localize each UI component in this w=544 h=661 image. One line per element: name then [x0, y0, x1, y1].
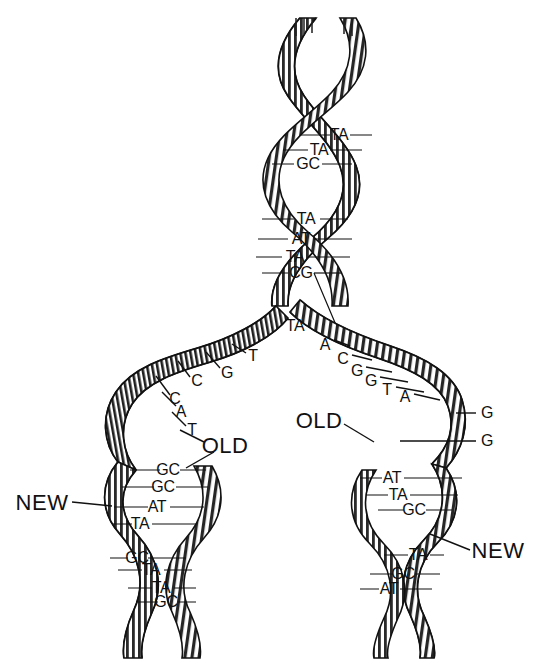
right-template-base: A	[400, 389, 410, 405]
right-template-strand	[290, 300, 465, 468]
left-daughter-base-pair: GC	[154, 594, 177, 610]
left-daughter-base-pair: TA	[142, 562, 161, 578]
right-template-base: T	[382, 382, 391, 398]
dna-replication-figure: TAGCTAATTACGTATATGCCATACGGTAGGGCGCATTAGC…	[0, 0, 544, 661]
left-daughter-base-pair: GC	[151, 479, 174, 495]
parent-base-pair: TA	[297, 211, 316, 227]
old-label-right: OLD	[296, 410, 343, 432]
parent-base-pair: TA	[286, 249, 305, 265]
dna-helix-illustration	[0, 0, 544, 661]
parent-base-pair: TA	[330, 127, 349, 143]
new-label-left: NEW	[16, 492, 69, 514]
parent-helix-group	[256, 18, 372, 344]
left-template-base: T	[187, 422, 196, 438]
left-template-base: A	[176, 404, 186, 420]
right-template-base: C	[337, 351, 348, 367]
right-template-base: G	[481, 405, 493, 421]
left-template-base: T	[248, 348, 257, 364]
right-daughter-base-pair: AT	[383, 470, 402, 486]
new-label-right: NEW	[472, 540, 525, 562]
parent-base-pair: CG	[289, 265, 312, 281]
right-template-base: G	[481, 433, 493, 449]
old-label-left: OLD	[202, 435, 249, 457]
left-template-base: C	[191, 373, 202, 389]
left-daughter-base-pair: GC	[156, 462, 179, 478]
parent-base-pair: TA	[310, 142, 329, 158]
right-daughter-base-pair: GC	[402, 502, 425, 518]
old-right-leader	[344, 424, 374, 442]
right-template-base: G	[365, 373, 377, 389]
parent-base-pair: TA	[286, 318, 305, 334]
parent-base-pair: GC	[296, 156, 319, 172]
right-template-base: G	[351, 363, 363, 379]
left-daughter-base-pair: TA	[131, 516, 150, 532]
right-daughter-base-pair: AT	[380, 581, 399, 597]
right-template-base: A	[320, 337, 330, 353]
parent-helix-top-stubs	[296, 18, 352, 36]
left-template-base: G	[221, 365, 233, 381]
parent-base-pair: AT	[292, 231, 311, 247]
right-daughter-base-pair: TA	[409, 547, 428, 563]
left-daughter-base-pair: AT	[148, 499, 167, 515]
